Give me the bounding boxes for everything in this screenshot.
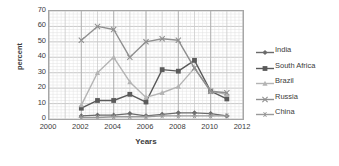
legend-marker-triangle-icon [256,75,274,86]
x-tick-label: 2008 [162,122,192,131]
x-tick-label: 2004 [98,122,128,131]
y-tick-label: 60 [38,21,46,29]
legend-item-china[interactable]: China [256,104,338,120]
legend-label: Russia [274,92,298,101]
legend-label: Brazil [274,76,294,85]
legend-item-brazil[interactable]: Brazil [256,73,338,89]
y-tick-label: 30 [38,68,46,76]
legend-marker-square-icon [256,60,274,71]
legend-label: China [274,107,295,116]
series-lines [49,11,243,119]
x-axis-ticks: 2000200220042006200820102012 [0,122,339,134]
y-tick-label: 10 [38,99,46,107]
legend-marker-star-icon [256,106,274,117]
plot-area [48,10,244,120]
legend-marker-diamond-icon [256,44,274,55]
y-tick-label: 20 [38,83,46,91]
legend-item-india[interactable]: India [256,42,338,58]
x-tick-label: 2006 [130,122,160,131]
y-tick-label: 70 [38,6,46,14]
y-axis-ticks: 010203040506070 [20,0,46,166]
legend-item-russia[interactable]: Russia [256,89,338,105]
chart-legend: IndiaSouth AfricaBrazilRussiaChina [256,42,338,120]
x-tick-label: 2002 [65,122,95,131]
legend-label: South Africa [274,61,315,70]
y-tick-label: 50 [38,37,46,45]
legend-marker-cross-icon [256,91,274,102]
x-tick-label: 2010 [195,122,225,131]
y-tick-label: 0 [42,114,46,122]
legend-label: India [274,45,291,54]
y-tick-label: 40 [38,52,46,60]
x-axis-title: Years [48,137,244,146]
legend-item-south-africa[interactable]: South Africa [256,58,338,74]
x-tick-label: 2000 [33,122,63,131]
chart-container: percent 010203040506070 2000200220042006… [0,0,339,166]
x-tick-label: 2012 [227,122,257,131]
